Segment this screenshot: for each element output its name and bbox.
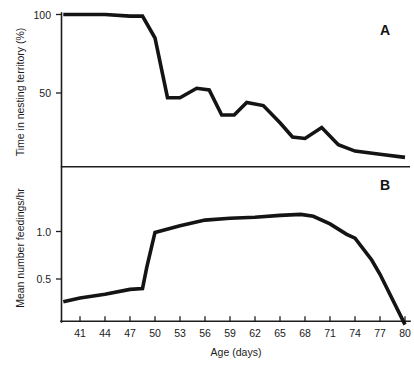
x-tick-label-50: 50	[149, 327, 161, 339]
panel-a-data-line	[63, 15, 405, 158]
panel-a-ytick-label-50: 50	[39, 87, 51, 99]
x-tick-label-47: 47	[124, 327, 136, 339]
x-tick-label-65: 65	[274, 327, 286, 339]
panel-b-data-line	[63, 214, 405, 324]
panel-label-b: B	[380, 177, 390, 193]
panel-a: 100 50 Time in nesting territory (%)	[14, 9, 405, 167]
panel-a-y-axis-title: Time in nesting territory (%)	[14, 28, 26, 157]
panel-b-y-axis-title: Mean number feedings/hr	[14, 188, 26, 308]
x-tick-label-74: 74	[349, 327, 361, 339]
figure-container: 100 50 Time in nesting territory (%) A B…	[0, 0, 414, 376]
panel-b-y-ticks	[56, 232, 62, 280]
panel-b-ytick-label-0-5: 0.5	[36, 273, 51, 285]
panel-b: 1.0 0.5 Mean number feedings/hr 41444750…	[14, 167, 411, 339]
x-axis-tick-labels: 4144475053565962656871747780	[74, 327, 411, 339]
x-tick-label-80: 80	[399, 327, 411, 339]
x-tick-label-68: 68	[299, 327, 311, 339]
panel-a-ytick-label-100: 100	[33, 9, 51, 21]
two-panel-line-chart: 100 50 Time in nesting territory (%) A B…	[0, 0, 414, 376]
x-tick-label-77: 77	[374, 327, 386, 339]
x-tick-label-71: 71	[324, 327, 336, 339]
x-tick-label-62: 62	[249, 327, 261, 339]
panel-label-a: A	[380, 22, 390, 38]
panel-a-y-ticks	[56, 15, 62, 94]
x-tick-label-53: 53	[174, 327, 186, 339]
x-tick-label-59: 59	[224, 327, 236, 339]
panel-b-ytick-label-1-0: 1.0	[36, 226, 51, 238]
x-tick-label-41: 41	[74, 327, 86, 339]
x-tick-label-56: 56	[199, 327, 211, 339]
x-tick-label-44: 44	[99, 327, 111, 339]
x-axis-title: Age (days)	[211, 346, 262, 358]
